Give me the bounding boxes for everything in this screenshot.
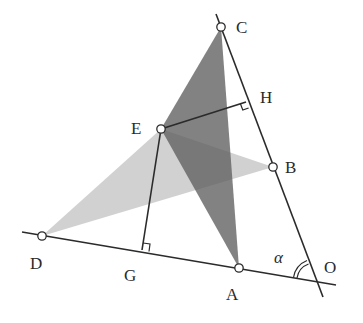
point-E — [157, 125, 165, 133]
geometry-diagram: C H E B D G A O α — [0, 0, 363, 323]
right-angle-mark-G — [143, 243, 150, 252]
label-E: E — [131, 119, 141, 138]
label-O: O — [324, 258, 336, 277]
point-C — [217, 23, 225, 31]
label-A: A — [226, 285, 239, 304]
label-G: G — [124, 266, 136, 285]
point-B — [269, 163, 277, 171]
label-B: B — [285, 158, 296, 177]
light-triangle-EDB — [42, 129, 273, 236]
dark-triangle-CEA — [161, 27, 239, 268]
line-OD — [22, 232, 336, 285]
label-D: D — [30, 254, 42, 273]
diagram-canvas: C H E B D G A O α — [0, 0, 363, 323]
right-angle-mark-H — [241, 104, 249, 110]
label-H: H — [260, 88, 272, 107]
point-D — [38, 232, 46, 240]
point-A — [235, 264, 243, 272]
label-C: C — [236, 18, 247, 37]
label-alpha: α — [274, 248, 284, 267]
